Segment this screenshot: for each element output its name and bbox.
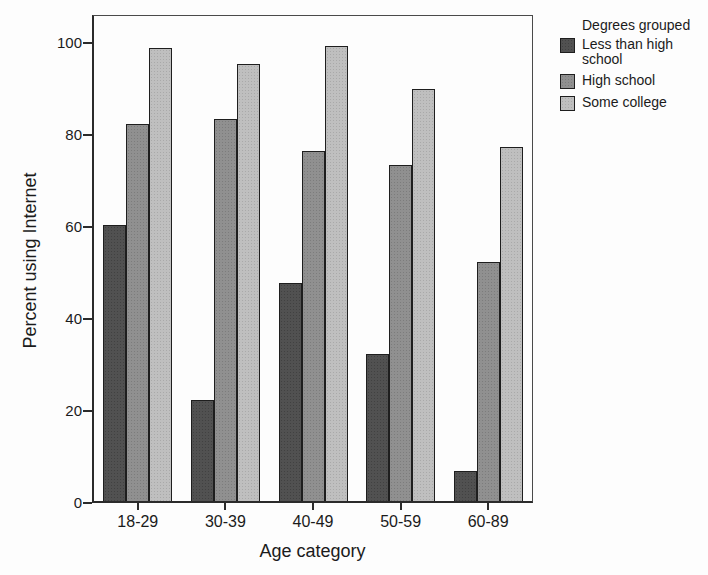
x-tick-label-18-29: 18-29: [94, 512, 182, 532]
legend-title: Degrees grouped: [582, 17, 706, 33]
y-tick-mark-60: [83, 226, 92, 228]
bar-30-39-less-than-high-school: [191, 400, 214, 501]
grouped-bar-chart-figure: Percent using Internet 020406080100 18-2…: [0, 0, 708, 575]
x-tick-mark-40-49: [312, 503, 314, 510]
bar-group-50-59: [366, 89, 435, 501]
bar-18-29-high-school: [126, 124, 149, 501]
x-tick-mark-50-59: [400, 503, 402, 510]
bar-50-59-high-school: [389, 165, 412, 501]
legend-swatch-icon: [560, 74, 575, 89]
legend-swatch-icon: [560, 96, 575, 111]
legend: Degrees grouped Less than high schoolHig…: [560, 17, 706, 117]
y-tick-label-20: 20: [0, 402, 82, 420]
bar-60-89-high-school: [477, 262, 500, 501]
bar-18-29-less-than-high-school: [103, 225, 126, 501]
x-tick-label-50-59: 50-59: [357, 512, 445, 532]
x-axis-title: Age category: [92, 541, 533, 562]
y-tick-mark-100: [83, 42, 92, 44]
bar-group-30-39: [191, 64, 260, 501]
y-tick-label-60: 60: [0, 218, 82, 236]
x-tick-label-60-89: 60-89: [444, 512, 532, 532]
legend-label: Some college: [582, 95, 667, 110]
x-tick-mark-60-89: [487, 503, 489, 510]
bar-50-59-some-college: [412, 89, 435, 501]
legend-label: High school: [582, 73, 655, 88]
y-tick-mark-0: [83, 502, 92, 504]
legend-entries: Less than high schoolHigh schoolSome col…: [560, 37, 706, 111]
bar-group-40-49: [279, 46, 348, 501]
bar-30-39-high-school: [214, 119, 237, 501]
x-tick-label-30-39: 30-39: [181, 512, 269, 532]
x-tick-mark-30-39: [224, 503, 226, 510]
bar-30-39-some-college: [237, 64, 260, 501]
y-tick-label-80: 80: [0, 126, 82, 144]
y-tick-mark-80: [83, 134, 92, 136]
legend-entry-high-school: High school: [560, 73, 706, 89]
legend-label: Less than high school: [582, 37, 700, 67]
y-tick-label-40: 40: [0, 310, 82, 328]
legend-entry-some-college: Some college: [560, 95, 706, 111]
y-tick-label-100: 100: [0, 34, 82, 52]
y-tick-mark-20: [83, 410, 92, 412]
y-axis-title: Percent using Internet: [20, 146, 41, 376]
x-tick-mark-18-29: [137, 503, 139, 510]
bar-18-29-some-college: [149, 48, 172, 501]
legend-entry-less-than-high-school: Less than high school: [560, 37, 706, 67]
x-tick-label-40-49: 40-49: [269, 512, 357, 532]
y-tick-mark-40: [83, 318, 92, 320]
bar-40-49-less-than-high-school: [279, 283, 302, 501]
legend-swatch-icon: [560, 38, 575, 53]
bar-40-49-high-school: [302, 151, 325, 501]
bar-group-60-89: [454, 147, 523, 501]
bar-40-49-some-college: [325, 46, 348, 501]
bar-group-18-29: [103, 48, 172, 501]
plot-area: [92, 15, 533, 503]
bar-50-59-less-than-high-school: [366, 354, 389, 501]
bar-60-89-less-than-high-school: [454, 471, 477, 501]
y-tick-label-0: 0: [0, 494, 82, 512]
bar-60-89-some-college: [500, 147, 523, 501]
